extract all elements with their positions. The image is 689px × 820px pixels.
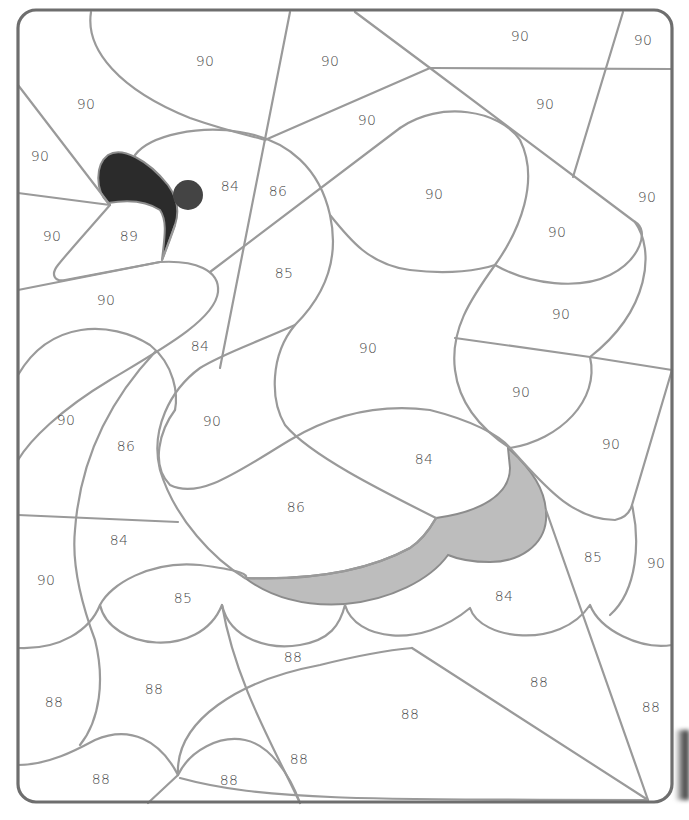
region-label: 84 (495, 588, 513, 604)
region-label: 88 (284, 649, 302, 665)
region-label: 84 (221, 178, 239, 194)
region-outlines (18, 12, 672, 803)
region-label: 88 (530, 674, 548, 690)
region-label: 88 (401, 706, 419, 722)
region-label: 84 (110, 532, 128, 548)
region-number-labels: 90 90 90 90 90 90 90 90 84 86 90 90 90 8… (31, 28, 665, 788)
region-label: 88 (92, 771, 110, 787)
region-label: 90 (37, 572, 55, 588)
page-frame (18, 10, 672, 802)
region-label: 88 (220, 772, 238, 788)
region-label: 90 (602, 436, 620, 452)
region-label: 90 (552, 306, 570, 322)
region-label: 90 (358, 112, 376, 128)
region-label: 90 (203, 413, 221, 429)
region-label: 88 (642, 699, 660, 715)
region-label: 90 (43, 228, 61, 244)
region-label: 86 (117, 438, 135, 454)
region-label: 86 (269, 183, 287, 199)
region-label: 90 (196, 53, 214, 69)
region-label: 90 (97, 292, 115, 308)
region-label: 84 (415, 451, 433, 467)
region-label: 85 (174, 590, 192, 606)
region-label: 88 (290, 751, 308, 767)
filled-regions (98, 152, 546, 604)
region-label: 90 (31, 148, 49, 164)
region-label: 90 (57, 412, 75, 428)
region-label: 90 (548, 224, 566, 240)
region-label: 90 (77, 96, 95, 112)
region-label: 90 (638, 189, 656, 205)
region-label: 90 (511, 28, 529, 44)
region-label: 85 (275, 265, 293, 281)
region-label: 88 (145, 681, 163, 697)
region-label: 90 (359, 340, 377, 356)
region-label: 89 (120, 228, 138, 244)
region-label: 90 (536, 96, 554, 112)
color-by-number-artwork: 90 90 90 90 90 90 90 90 84 86 90 90 90 8… (0, 0, 689, 820)
region-label: 88 (45, 694, 63, 710)
region-label: 90 (634, 32, 652, 48)
wing-shadow-region[interactable] (245, 448, 546, 604)
region-label: 84 (191, 338, 209, 354)
region-label: 90 (425, 186, 443, 202)
region-label: 90 (321, 53, 339, 69)
eye-region[interactable] (173, 180, 203, 210)
region-label: 86 (287, 499, 305, 515)
region-label: 90 (647, 555, 665, 571)
region-label: 90 (512, 384, 530, 400)
region-label: 85 (584, 549, 602, 565)
